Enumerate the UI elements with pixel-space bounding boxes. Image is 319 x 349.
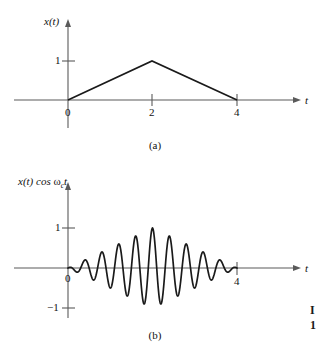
panel-a-xtick-4: 4 xyxy=(234,107,240,118)
panel-a-caption: (a) xyxy=(125,140,185,151)
panel-b-ytick-minus1: −1 xyxy=(47,302,59,313)
panel-b-xtick-0: 0 xyxy=(65,273,71,284)
panel-a-axes xyxy=(14,19,301,128)
panel-b-y-axis-label-omega: ω xyxy=(53,175,60,187)
page-edge-text-line-2: 1 xyxy=(310,318,319,333)
panel-a-xtick-2: 2 xyxy=(149,107,155,118)
panel-b-y-axis-label-prefix: x(t) cos xyxy=(18,175,53,187)
panel-b-y-axis-label-suffix: t xyxy=(64,175,67,187)
panel-b-y-axis-label: x(t) cos ωct xyxy=(18,176,67,190)
panel-a-xtick-0: 0 xyxy=(65,107,71,118)
panel-b-x-axis-label: t xyxy=(305,263,308,274)
page-edge-text-line-1: I xyxy=(310,303,319,318)
page-edge-text-artifact: I 1 xyxy=(310,303,319,333)
panel-b-xtick-4: 4 xyxy=(234,276,240,287)
panel-b-curve xyxy=(68,228,237,304)
panel-b-axes xyxy=(14,182,301,318)
panel-b-ytick-1: 1 xyxy=(55,222,61,233)
panel-a-y-axis-label: x(t) xyxy=(44,16,59,27)
figure-container: x(t) t 1 0 2 4 (a) x(t) cos ωct t 1 −1 0… xyxy=(0,0,319,349)
panel-a-x-axis-label: t xyxy=(305,95,308,106)
panel-a-ytick-1: 1 xyxy=(55,55,61,66)
panel-b-caption: (b) xyxy=(125,330,185,341)
